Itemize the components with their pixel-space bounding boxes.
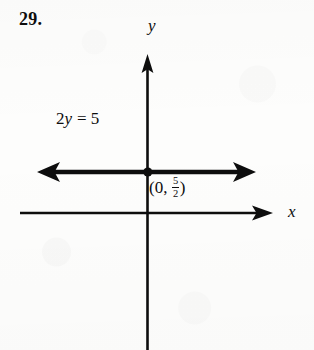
- fraction-denominator: 2: [172, 189, 179, 200]
- equation-value: 5: [91, 109, 100, 128]
- point-coordinate-label: (0,52): [149, 176, 185, 199]
- coordinate-plane-figure: [0, 0, 314, 350]
- point-y-fraction: 52: [172, 176, 179, 199]
- equation-coefficient: 2: [56, 109, 65, 128]
- point-x-value: 0: [155, 179, 164, 196]
- y-axis: [142, 54, 154, 350]
- point-comma: ,: [163, 179, 167, 196]
- equation-equals-sign: =: [77, 109, 87, 128]
- fraction-numerator: 5: [172, 176, 179, 187]
- y-axis-label: y: [148, 17, 156, 34]
- equation-variable: y: [65, 109, 73, 128]
- x-axis-label: x: [288, 203, 296, 220]
- point-close-paren: ): [180, 179, 186, 196]
- equation-label: 2y=5: [56, 110, 99, 127]
- figure-page: 29. y x 2y=5 (0,52): [0, 0, 314, 350]
